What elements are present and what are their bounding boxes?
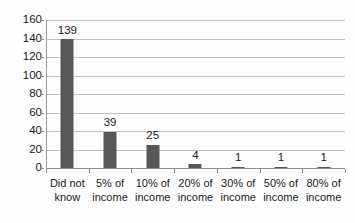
bar (61, 39, 74, 168)
y-axis-tick-mark (40, 113, 44, 114)
bar-slot: 139 (46, 20, 89, 168)
y-axis-tick-mark (40, 57, 44, 58)
y-axis-tick-mark (40, 39, 44, 40)
x-axis-tick-mark (302, 169, 303, 173)
x-axis-category-label: Did notknow (46, 176, 89, 204)
y-axis-tick-mark (40, 131, 44, 132)
y-axis-tick-label: 60 (2, 107, 42, 119)
x-axis-tick-mark (89, 169, 90, 173)
bar-value-label: 4 (192, 150, 198, 162)
y-axis-tick-mark (40, 168, 44, 169)
y-axis-tick-label: 0 (2, 162, 42, 174)
bar-slot: 1 (302, 20, 345, 168)
bar-value-label: 139 (58, 25, 77, 37)
bar (146, 145, 159, 168)
plot-area: 13939254111 (46, 20, 345, 168)
x-axis-category-labels: Did notknow5% ofincome10% ofincome20% of… (46, 176, 345, 220)
x-axis-tick-mark (260, 169, 261, 173)
bar-slot: 4 (174, 20, 217, 168)
y-axis-tick-label: 140 (2, 33, 42, 45)
y-axis-tick-mark (40, 94, 44, 95)
bar-slot: 1 (217, 20, 260, 168)
y-axis-tick-label: 160 (2, 14, 42, 26)
y-axis-tick-mark (40, 150, 44, 151)
x-axis-category-label: 30% ofincome (217, 176, 260, 204)
bar-chart: 020406080100120140160 13939254111 Did no… (0, 0, 355, 223)
x-axis-tick-mark (131, 169, 132, 173)
y-axis-tick-mark (40, 76, 44, 77)
x-axis-tick-mark (174, 169, 175, 173)
y-axis-tick-label: 80 (2, 88, 42, 100)
x-axis-category-label: 80% ofincome (302, 176, 345, 204)
bar-value-label: 1 (235, 152, 241, 164)
x-axis-tick-mark (345, 169, 346, 173)
x-axis-tick-mark (46, 169, 47, 173)
y-axis-tick-label: 20 (2, 144, 42, 156)
y-axis-tick-label: 120 (2, 51, 42, 63)
y-axis-tick-labels: 020406080100120140160 (0, 20, 42, 168)
bar-value-label: 39 (104, 117, 117, 129)
x-axis-line (46, 168, 345, 169)
x-axis-category-label: 50% ofincome (260, 176, 303, 204)
y-axis-line (46, 20, 47, 169)
x-axis-category-label: 10% ofincome (131, 176, 174, 204)
y-axis-tick-label: 100 (2, 70, 42, 82)
bar-slot: 1 (260, 20, 303, 168)
x-axis-category-label: 20% ofincome (174, 176, 217, 204)
bar (104, 132, 117, 168)
bar-slot: 25 (131, 20, 174, 168)
y-axis-tick-mark (40, 20, 44, 21)
bar-value-label: 1 (278, 152, 284, 164)
x-axis-category-label: 5% ofincome (89, 176, 132, 204)
y-axis-tick-label: 40 (2, 125, 42, 137)
bar-value-label: 1 (320, 152, 326, 164)
x-axis-tick-mark (217, 169, 218, 173)
bar-value-label: 25 (146, 130, 159, 142)
bar-slot: 39 (89, 20, 132, 168)
